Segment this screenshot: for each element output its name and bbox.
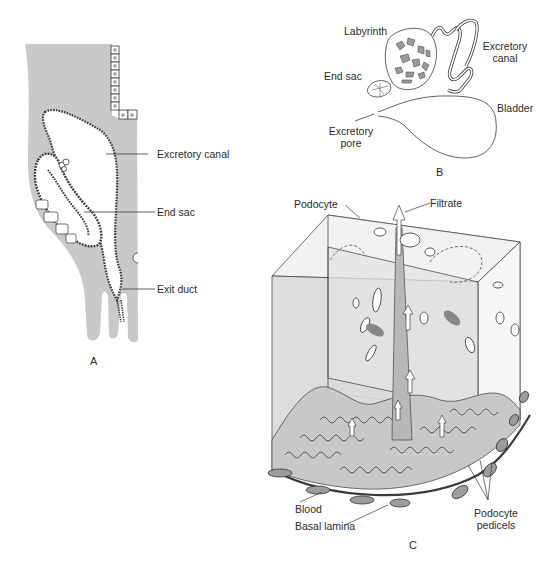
label-b-excretory-pore-line2: pore (326, 137, 376, 149)
label-c-blood: Blood (295, 503, 322, 515)
label-c-podocyte-pedicels: Podocyte pedicels (466, 507, 526, 531)
label-c-podocyte-pedicels-line1: Podocyte (466, 507, 526, 519)
label-b-excretory-canal: Excretory canal (480, 40, 530, 64)
label-b-end-sac: End sac (324, 70, 362, 82)
label-b-excretory-pore-line1: Excretory (326, 125, 376, 137)
label-a-excretory-canal: Excretory canal (157, 148, 229, 160)
label-b-labyrinth: Labyrinth (344, 25, 387, 37)
label-a-end-sac: End sac (157, 206, 195, 218)
panel-c-drawing (268, 203, 534, 525)
figure-illustration (0, 0, 554, 566)
label-b-bladder: Bladder (497, 102, 533, 114)
panel-label-a: A (90, 355, 97, 367)
label-a-exit-duct: Exit duct (157, 283, 197, 295)
label-c-basal-lamina: Basal lamina (295, 520, 355, 532)
panel-b-drawing (355, 20, 496, 158)
label-b-excretory-canal-line1: Excretory (480, 40, 530, 52)
panel-a-drawing (25, 44, 155, 342)
panel-label-c: C (409, 539, 417, 551)
panel-label-b: B (436, 166, 443, 178)
label-b-excretory-pore: Excretory pore (326, 125, 376, 149)
label-c-filtrate: Filtrate (430, 197, 462, 209)
label-c-podocyte: Podocyte (294, 198, 338, 210)
label-b-excretory-canal-line2: canal (480, 52, 530, 64)
label-c-podocyte-pedicels-line2: pedicels (466, 519, 526, 531)
